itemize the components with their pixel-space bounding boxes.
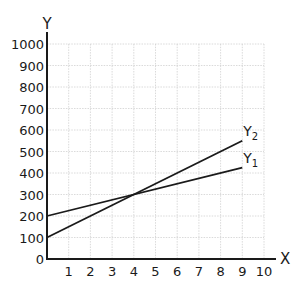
y-tick-label: 700 xyxy=(19,102,44,117)
y-tick-label: 900 xyxy=(19,59,44,74)
x-tick-label: 1 xyxy=(65,264,73,279)
series-label-y2: Y2 xyxy=(242,123,258,142)
x-tick-label: 4 xyxy=(130,264,138,279)
x-tick-label: 5 xyxy=(151,264,159,279)
x-axis-label: X xyxy=(280,250,290,268)
x-tick-label: 10 xyxy=(256,264,273,279)
x-tick-label: 2 xyxy=(86,264,94,279)
y-axis-label: Y xyxy=(41,15,52,33)
y-tick-label: 300 xyxy=(19,188,44,203)
y-tick-label: 100 xyxy=(19,231,44,246)
y-tick-label: 0 xyxy=(36,252,44,267)
x-tick-label: 7 xyxy=(195,264,203,279)
y-tick-label: 800 xyxy=(19,80,44,95)
y-tick-label: 500 xyxy=(19,145,44,160)
x-tick-label: 9 xyxy=(238,264,246,279)
x-tick-label: 6 xyxy=(173,264,181,279)
series-line-y1 xyxy=(47,168,242,216)
y-tick-label: 1000 xyxy=(11,37,44,52)
x-tick-labels: 12345678910 xyxy=(65,264,273,279)
x-tick-label: 3 xyxy=(108,264,116,279)
chart: Y X 01002003004005006007008009001000 123… xyxy=(0,0,306,287)
series-label-y1: Y1 xyxy=(242,150,258,169)
y-tick-label: 400 xyxy=(19,166,44,181)
series-lines xyxy=(47,141,242,238)
y-tick-label: 200 xyxy=(19,209,44,224)
x-tick-label: 8 xyxy=(216,264,224,279)
series-line-y2 xyxy=(47,141,242,238)
grid xyxy=(47,44,264,259)
y-tick-label: 600 xyxy=(19,123,44,138)
y-tick-labels: 01002003004005006007008009001000 xyxy=(11,37,44,267)
